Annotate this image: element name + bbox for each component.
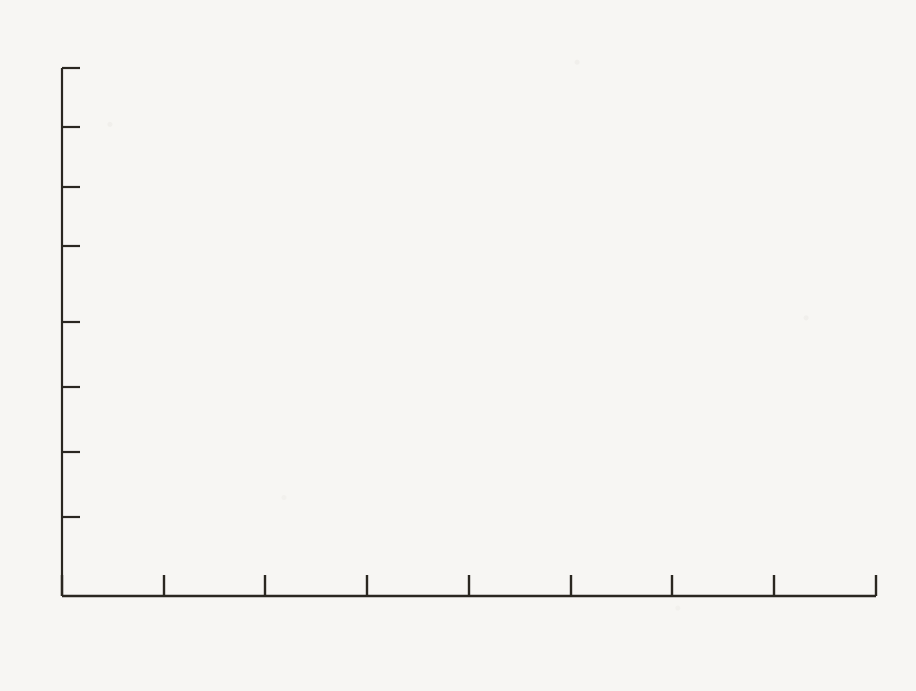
bottom-panel-y-ticks: [62, 322, 80, 517]
bottom-panel: [62, 300, 80, 596]
two-panel-line-chart: [0, 0, 916, 691]
x-axis-ticks: [62, 575, 876, 596]
x-axis: [62, 575, 876, 596]
top-panel-y-ticks: [62, 68, 80, 246]
top-panel: [62, 68, 80, 300]
scanned-figure-page: [0, 0, 916, 691]
